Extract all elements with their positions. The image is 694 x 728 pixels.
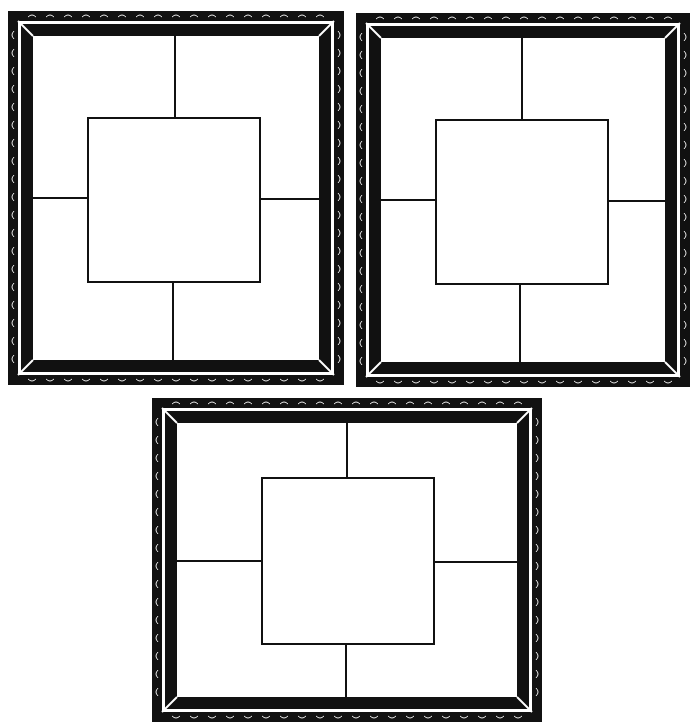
center-panel [436, 120, 608, 284]
frame-top-right [356, 13, 690, 387]
frame-top-left [8, 11, 344, 385]
frame-bottom [152, 398, 542, 722]
center-panel [262, 478, 434, 644]
center-panel [88, 118, 260, 282]
